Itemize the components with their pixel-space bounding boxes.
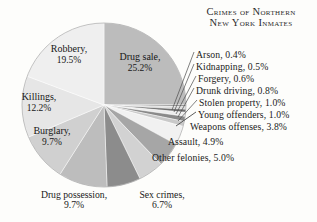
chart-title-line-1: Crimes of Northern [188, 6, 314, 17]
slice-label-sex-crimes-name: Sex crimes, [139, 189, 184, 200]
slice-label-stolen-property: Stolen property, 1.0% [199, 98, 286, 108]
slice-label-burglary: Burglary, 9.7% [18, 126, 86, 147]
slice-label-robbery-name: Robbery, [51, 43, 87, 54]
slice-label-assault: Assault, 4.9% [168, 137, 223, 147]
slice-label-drug-sale: Drug sale, 25.2% [104, 52, 176, 73]
chart-title-line-2: New York Inmates [188, 17, 314, 28]
slice-label-young-offenders: Young offenders, 1.0% [198, 110, 289, 120]
slice-label-weapons-offenses: Weapons offenses, 3.8% [190, 122, 287, 132]
slice-label-killings: Killings, 12.2% [6, 92, 72, 113]
slice-label-other-felonies: Other felonies, 5.0% [152, 153, 234, 163]
slice-label-drug-possession-name: Drug possession, [41, 189, 107, 200]
slice-label-killings-value: 12.2% [6, 103, 72, 113]
slice-label-drunk-driving: Drunk driving, 0.8% [196, 86, 278, 96]
slice-label-kidnapping: Kidnapping, 0.5% [196, 62, 268, 72]
slice-label-killings-name: Killings, [22, 91, 57, 102]
slice-label-drug-possession: Drug possession, 9.7% [22, 190, 126, 211]
slice-label-sex-crimes: Sex crimes, 6.7% [126, 190, 198, 211]
slice-label-drug-sale-value: 25.2% [104, 63, 176, 73]
slice-label-robbery: Robbery, 19.5% [30, 44, 108, 65]
pie-chart-figure: Drug sale, 25.2%Arson, 0.4%Kidnapping, 0… [0, 0, 317, 222]
slice-label-drug-sale-name: Drug sale, [119, 51, 160, 62]
slice-label-burglary-value: 9.7% [18, 137, 86, 147]
slice-label-robbery-value: 19.5% [30, 55, 108, 65]
slice-label-forgery: Forgery, 0.6% [198, 74, 254, 84]
chart-title: Crimes of Northern New York Inmates [188, 6, 314, 29]
slice-label-sex-crimes-value: 6.7% [126, 200, 198, 210]
slice-label-drug-possession-value: 9.7% [22, 200, 126, 210]
slice-label-burglary-name: Burglary, [33, 125, 70, 136]
slice-label-arson: Arson, 0.4% [196, 50, 246, 60]
